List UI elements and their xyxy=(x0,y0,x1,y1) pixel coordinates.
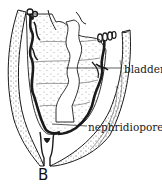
label-bladder: bladder xyxy=(124,64,162,75)
panel-letter: B xyxy=(38,168,48,183)
anatomical-drawing xyxy=(0,0,162,187)
nephridium-illustration: bladder nephridiopore B xyxy=(0,0,162,187)
label-nephridiopore: nephridiopore xyxy=(88,122,162,133)
